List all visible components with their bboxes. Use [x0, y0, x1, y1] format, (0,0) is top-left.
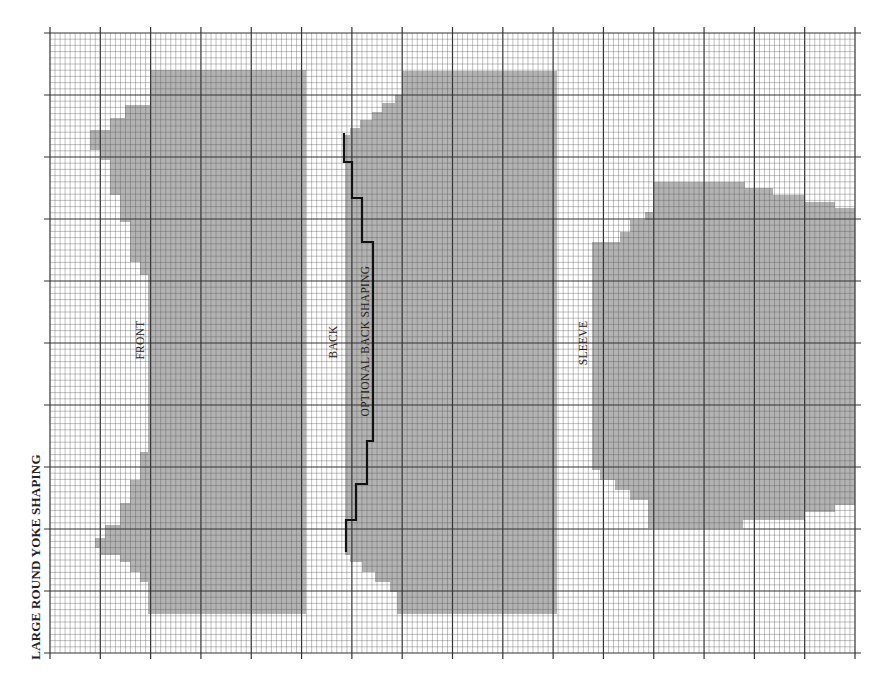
sleeve-label: SLEEVE — [577, 321, 589, 366]
optional-back-shaping-label: OPTIONAL BACK SHAPING — [359, 266, 371, 417]
front-piece — [90, 70, 306, 614]
chart-title: LARGE ROUND YOKE SHAPING — [28, 454, 44, 659]
sleeve-piece — [592, 182, 855, 528]
front-label: FRONT — [134, 320, 146, 359]
back-label: BACK — [327, 325, 339, 358]
